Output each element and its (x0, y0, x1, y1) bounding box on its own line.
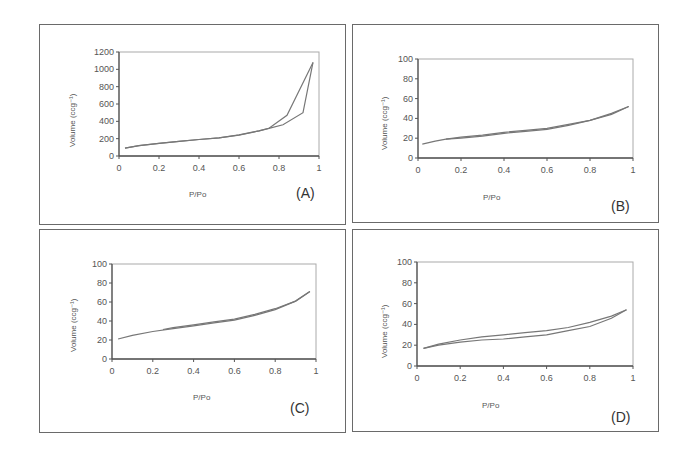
y-tick-label: 0 (102, 354, 107, 364)
y-axis-label-c: Volume (ccg⁻¹) (69, 299, 78, 352)
y-tick-label: 40 (403, 113, 413, 123)
y-tick-label: 200 (99, 134, 114, 144)
x-tick-label: 0.4 (498, 165, 511, 175)
y-tick-label: 1000 (94, 64, 114, 74)
x-tick-label: 0.6 (540, 373, 553, 383)
x-tick-label: 0.2 (455, 165, 468, 175)
y-axis-label-b: Volume (ccg⁻¹) (380, 97, 389, 150)
series-desorption (125, 62, 313, 148)
y-tick-label: 80 (402, 278, 412, 288)
x-tick-label: 0.2 (153, 163, 166, 173)
y-tick-label: 60 (403, 94, 413, 104)
x-tick-label: 0 (415, 165, 420, 175)
chart-b: 02040608010000.20.40.60.81 (353, 25, 660, 224)
y-tick-label: 20 (97, 335, 107, 345)
series-desorption (446, 107, 629, 140)
panel-label-b: (B) (611, 198, 630, 214)
x-tick-label: 0.2 (454, 373, 467, 383)
y-tick-label: 1200 (94, 47, 114, 57)
y-tick-label: 60 (97, 297, 107, 307)
y-tick-label: 40 (97, 316, 107, 326)
x-axis-label-a: P/Po (189, 190, 206, 199)
y-tick-label: 800 (99, 82, 114, 92)
plot-area (119, 52, 319, 156)
x-axis-label-d: P/Po (482, 401, 499, 410)
y-tick-label: 40 (402, 319, 412, 329)
y-tick-label: 20 (403, 133, 413, 143)
x-tick-label: 0.8 (269, 366, 282, 376)
plot-area (418, 59, 633, 158)
x-tick-label: 0.6 (541, 165, 554, 175)
x-tick-label: 0.8 (273, 163, 286, 173)
panel-label-a: (A) (296, 185, 315, 201)
panel-a: 02004006008001000120000.20.40.60.81 Volu… (39, 24, 346, 225)
x-tick-label: 0 (414, 373, 419, 383)
y-tick-label: 0 (407, 361, 412, 371)
x-axis-label-b: P/Po (483, 193, 500, 202)
y-axis-label-a: Volume (ccg⁻¹) (68, 94, 77, 147)
y-tick-label: 600 (99, 99, 114, 109)
panel-label-d: (D) (611, 409, 630, 425)
panel-d: 02040608010000.20.40.60.81 Volume (ccg⁻¹… (352, 229, 659, 432)
panel-b: 02040608010000.20.40.60.81 Volume (ccg⁻¹… (352, 24, 659, 223)
panel-c: 02040608010000.20.40.60.81 Volume (ccg⁻¹… (39, 229, 346, 433)
x-tick-label: 0.4 (187, 366, 200, 376)
x-tick-label: 1 (630, 165, 635, 175)
y-tick-label: 400 (99, 116, 114, 126)
y-tick-label: 100 (397, 257, 412, 267)
y-tick-label: 100 (92, 259, 107, 269)
y-tick-label: 80 (97, 278, 107, 288)
series-adsorption (424, 310, 627, 349)
x-tick-label: 0.4 (497, 373, 510, 383)
plot-area (417, 262, 633, 366)
chart-d: 02040608010000.20.40.60.81 (353, 230, 660, 433)
panel-label-c: (C) (290, 400, 309, 416)
x-tick-label: 0.4 (193, 163, 206, 173)
y-tick-label: 80 (403, 74, 413, 84)
x-tick-label: 1 (316, 163, 321, 173)
x-axis-label-c: P/Po (193, 393, 210, 402)
x-tick-label: 0.6 (233, 163, 246, 173)
plot-area (112, 264, 316, 359)
x-tick-label: 0.2 (147, 366, 160, 376)
x-tick-label: 0.8 (584, 165, 597, 175)
x-tick-label: 0 (116, 163, 121, 173)
x-tick-label: 0 (109, 366, 114, 376)
series-adsorption (125, 62, 313, 148)
y-tick-label: 0 (408, 153, 413, 163)
x-tick-label: 1 (313, 366, 318, 376)
x-tick-label: 0.6 (228, 366, 241, 376)
y-tick-label: 100 (398, 54, 413, 64)
y-tick-label: 20 (402, 340, 412, 350)
series-desorption (163, 292, 310, 330)
y-tick-label: 60 (402, 299, 412, 309)
series-adsorption (118, 292, 310, 340)
x-tick-label: 1 (630, 373, 635, 383)
y-tick-label: 0 (109, 151, 114, 161)
x-tick-label: 0.8 (584, 373, 597, 383)
y-axis-label-d: Volume (ccg⁻¹) (380, 305, 389, 358)
